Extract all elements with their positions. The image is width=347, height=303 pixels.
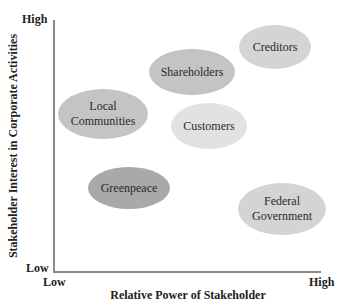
- bubble-label: Customers: [183, 119, 234, 134]
- bubble-label: Greenpeace: [101, 181, 158, 196]
- bubble-label-line2: Government: [252, 209, 312, 224]
- bubble-customers: Customers: [171, 103, 247, 149]
- bubble-label-line1: Local: [71, 99, 136, 114]
- x-axis-title: Relative Power of Stakeholder: [110, 288, 265, 303]
- x-axis-line: [53, 271, 321, 273]
- y-tick-high: High: [22, 12, 47, 27]
- bubble-creditors: Creditors: [239, 25, 311, 69]
- bubble-shareholders: Shareholders: [149, 49, 235, 95]
- x-tick-high: High: [309, 275, 334, 290]
- bubble-label-line1: Federal: [252, 194, 312, 209]
- x-tick-low: Low: [43, 275, 66, 290]
- bubble-label-line2: Communities: [71, 114, 136, 129]
- bubble-label: Shareholders: [161, 65, 224, 80]
- y-tick-low: Low: [26, 261, 49, 276]
- bubble-label: Creditors: [253, 40, 298, 55]
- bubble-federal-government: Federal Government: [238, 183, 326, 235]
- bubble-greenpeace: Greenpeace: [88, 167, 170, 209]
- y-axis-title: Stakeholder Interest in Corporate Activi…: [6, 34, 21, 258]
- bubble-local-communities: Local Communities: [58, 89, 148, 139]
- y-axis-line: [53, 20, 55, 273]
